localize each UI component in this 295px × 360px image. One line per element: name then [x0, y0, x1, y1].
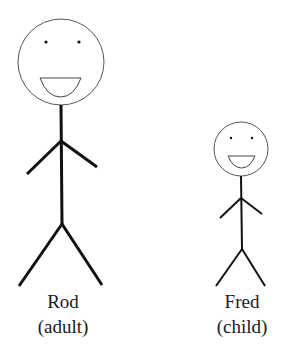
- rod-left-eye: [44, 40, 47, 43]
- fred-caption: Fred (child): [192, 289, 292, 339]
- fred-torso: [241, 176, 242, 249]
- rod-caption: Rod (adult): [13, 289, 113, 339]
- rod-left-arm: [27, 141, 61, 174]
- rod-name: Rod: [13, 289, 113, 314]
- rod-right-eye: [77, 40, 80, 43]
- rod-role: (adult): [13, 314, 113, 339]
- fred-mouth: [228, 156, 255, 168]
- fred-left-leg: [216, 249, 242, 286]
- figure-rod: [18, 19, 104, 286]
- rod-mouth: [40, 78, 81, 97]
- fred-right-leg: [242, 249, 265, 286]
- fred-name: Fred: [192, 289, 292, 314]
- rod-right-arm: [61, 141, 97, 167]
- rod-torso: [61, 105, 62, 224]
- fred-left-arm: [220, 198, 241, 218]
- rod-right-leg: [62, 224, 102, 285]
- figure-fred: [214, 122, 268, 286]
- fred-role: (child): [192, 314, 292, 339]
- fred-right-eye: [251, 137, 253, 139]
- fred-left-eye: [230, 137, 232, 139]
- fred-right-arm: [241, 198, 262, 214]
- rod-head: [18, 19, 104, 105]
- rod-left-leg: [19, 224, 62, 286]
